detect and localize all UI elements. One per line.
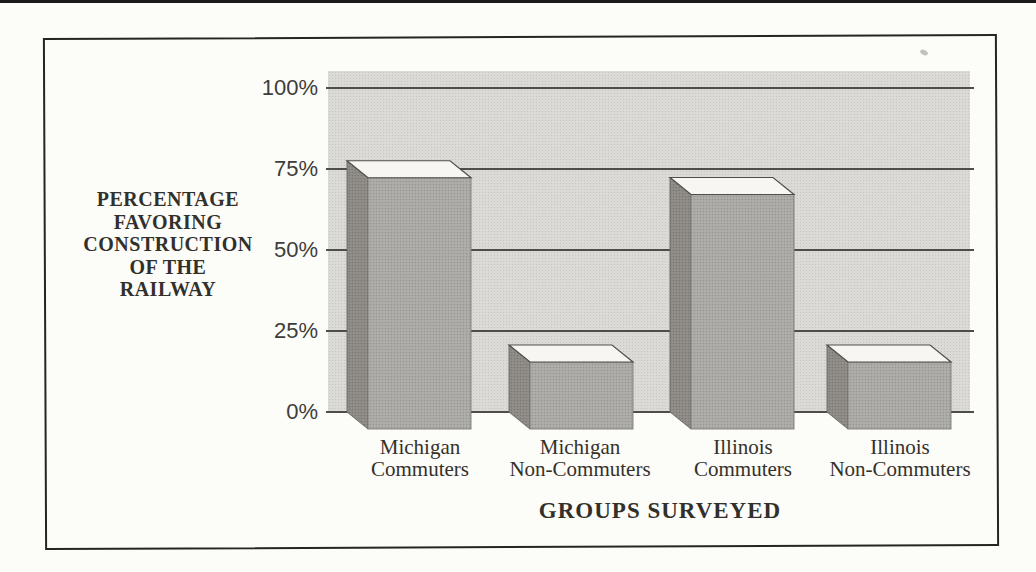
y-tick-75: 75%: [200, 155, 318, 183]
gridline-0: [326, 411, 974, 413]
x-axis-title: GROUPS SURVEYED: [460, 498, 860, 524]
y-axis-title-line: RAILWAY: [50, 278, 286, 301]
scan-edge-top: [0, 0, 1036, 3]
y-tick-50: 50%: [200, 236, 318, 264]
y-axis-title-line: PERCENTAGE: [50, 188, 286, 211]
y-tick-100: 100%: [200, 74, 318, 102]
y-axis-title-line: FAVORING: [50, 211, 286, 234]
gridline-75: [326, 168, 974, 170]
category-label-line: Non-Commuters: [790, 459, 1010, 481]
gridline-100: [326, 87, 974, 89]
gridline-25: [326, 330, 974, 332]
gridline-50: [326, 249, 974, 251]
y-tick-0: 0%: [200, 398, 318, 426]
x-category-illinois-non-commuters: Illinois Non-Commuters: [790, 437, 1010, 480]
category-label-line: Illinois: [790, 437, 1010, 459]
scanned-chart-page: PERCENTAGE FAVORING CONSTRUCTION OF THE …: [0, 0, 1036, 572]
y-tick-25: 25%: [200, 317, 318, 345]
plot-area: [328, 71, 970, 412]
